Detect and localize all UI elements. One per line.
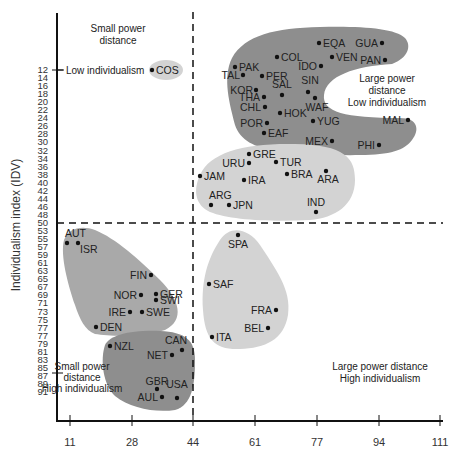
note-large-pd-high-idv-2: High individualism <box>340 373 421 384</box>
point-marker <box>175 396 179 400</box>
point-label: ARG <box>209 189 232 201</box>
point-marker <box>380 41 384 45</box>
point-label: URU <box>222 157 245 169</box>
x-tick-label: 94 <box>373 436 385 448</box>
x-tick-label: 44 <box>187 436 199 448</box>
point-marker <box>154 298 158 302</box>
point-label: JAM <box>204 170 225 182</box>
point-marker <box>377 143 381 147</box>
point-marker <box>383 58 387 62</box>
point-marker <box>236 233 240 237</box>
point-label: PHI <box>357 139 375 151</box>
note-small-pd-high-idv-1: Small power <box>54 361 110 372</box>
point-marker <box>180 348 184 352</box>
point-marker <box>285 172 289 176</box>
point-label: POR <box>240 117 263 129</box>
note-large-pd-low-idv-3: Low individualism <box>348 97 426 108</box>
y-axis-ticks: 1214161820222426283032343638404244464850… <box>37 64 48 397</box>
point-label: ITA <box>216 331 232 343</box>
x-tick-label: 28 <box>126 436 138 448</box>
point-marker <box>406 118 410 122</box>
x-tick-label: 77 <box>311 436 323 448</box>
point-label: JPN <box>233 199 253 211</box>
point-marker <box>274 308 278 312</box>
point-marker <box>128 310 132 314</box>
point-label: YUG <box>317 115 340 127</box>
point-label: HOK <box>284 107 307 119</box>
point-label: EAF <box>268 127 288 139</box>
note-small-pd-high-idv-2: distance <box>63 372 101 383</box>
point-label: PAK <box>239 61 259 73</box>
point-label: PAN <box>360 54 381 66</box>
point-label: AUT <box>65 227 87 239</box>
point-label: BEL <box>244 322 264 334</box>
point-label: COS <box>156 64 179 76</box>
note-large-pd-high-idv-1: Large power distance <box>332 361 428 372</box>
point-label: TUR <box>280 156 302 168</box>
point-marker <box>65 241 69 245</box>
point-marker <box>262 95 266 99</box>
point-label: EQA <box>323 37 345 49</box>
point-marker <box>266 326 270 330</box>
point-label: FRA <box>251 304 272 316</box>
x-axis-ticks: 112844617794111 <box>64 415 448 448</box>
point-marker <box>278 111 282 115</box>
point-label: VEN <box>336 51 358 63</box>
point-marker <box>265 121 269 125</box>
x-tick-label: 11 <box>64 436 75 448</box>
point-label: SIN <box>301 74 319 86</box>
point-marker <box>149 273 153 277</box>
point-label: SAL <box>272 78 292 90</box>
point-marker <box>275 55 279 59</box>
point-marker <box>140 310 144 314</box>
point-marker <box>313 96 317 100</box>
point-label: TAL <box>222 69 241 81</box>
point-marker <box>170 353 174 357</box>
point-label: SPA <box>228 238 248 250</box>
point-label: SWI <box>160 294 180 306</box>
note-low-individualism: Low individualism <box>66 65 144 76</box>
y-axis-title: Individualism index (IDV) <box>9 159 23 292</box>
point-marker <box>247 152 251 156</box>
note-large-pd-low-idv-2: distance <box>368 85 406 96</box>
point-label: NZL <box>114 340 134 352</box>
point-marker <box>108 344 112 348</box>
x-tick-label: 111 <box>432 436 449 448</box>
point-label: IRE <box>108 306 126 318</box>
point-marker <box>160 395 164 399</box>
data-point-isr: ISR <box>76 241 98 255</box>
note-large-pd-low-idv-1: Large power <box>359 73 415 84</box>
point-marker <box>274 160 278 164</box>
scatter-chart: 112844617794111 121416182022242628303234… <box>0 0 453 456</box>
point-label: BRA <box>291 168 313 180</box>
point-marker <box>207 282 211 286</box>
point-marker <box>262 131 266 135</box>
note-small-pd-line2: distance <box>99 35 137 46</box>
point-label: MEX <box>305 135 328 147</box>
point-label: WAF <box>306 101 329 113</box>
point-marker <box>330 139 334 143</box>
note-small-pd-line1: Small power <box>90 23 146 34</box>
note-small-pd-high-idv-3: High individualism <box>42 383 123 394</box>
point-marker <box>227 203 231 207</box>
point-marker <box>209 203 213 207</box>
point-marker <box>317 41 321 45</box>
point-label: SAF <box>213 278 233 290</box>
point-marker <box>260 74 264 78</box>
point-label: MAL <box>382 114 404 126</box>
point-marker <box>242 178 246 182</box>
point-marker <box>306 90 310 94</box>
point-marker <box>330 55 334 59</box>
point-label: IRA <box>248 174 266 186</box>
point-label: NOR <box>114 289 138 301</box>
point-label: ISR <box>80 243 98 255</box>
point-label: USA <box>166 378 188 390</box>
point-label: SWE <box>146 306 170 318</box>
point-marker <box>241 73 245 77</box>
point-label: DEN <box>100 321 122 333</box>
point-label: FIN <box>130 269 147 281</box>
point-marker <box>210 335 214 339</box>
point-marker <box>311 119 315 123</box>
point-marker <box>319 64 323 68</box>
x-tick-label: 61 <box>249 436 261 448</box>
